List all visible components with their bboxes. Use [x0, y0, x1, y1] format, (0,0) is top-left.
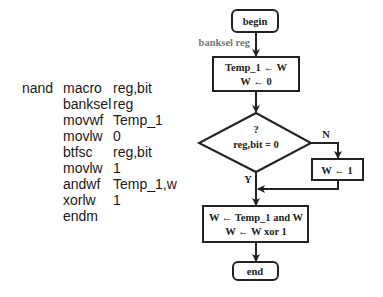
process-box-set-one: W ← 1 [312, 159, 363, 180]
process-line: W ← 0 [240, 76, 271, 87]
process-line: W ← 1 [321, 165, 352, 176]
process-line: W ← W xor 1 [225, 226, 287, 237]
end-terminal: end [233, 262, 278, 280]
arrow-merge [258, 180, 338, 189]
process-box-init: Temp_1 ← W W ← 0 [213, 57, 299, 91]
flowchart: begin banksel reg Temp_1 ← W W ← 0 ? reg… [0, 0, 383, 297]
end-label: end [247, 266, 264, 277]
arrow-no-branch [311, 143, 338, 158]
begin-terminal: begin [232, 10, 278, 32]
process-line: Temp_1 ← W [225, 62, 287, 73]
decision-diamond: ? reg,bit = 0 [199, 113, 311, 172]
decision-condition: reg,bit = 0 [233, 139, 279, 150]
no-branch-label: N [322, 129, 330, 140]
yes-branch-label: Y [244, 174, 252, 185]
begin-label: begin [243, 16, 268, 27]
process-line: W ← Temp_1 and W [209, 212, 304, 223]
process-box-nand: W ← Temp_1 and W W ← W xor 1 [203, 206, 308, 242]
side-note-label: banksel reg [199, 37, 251, 48]
decision-question: ? [253, 124, 258, 135]
